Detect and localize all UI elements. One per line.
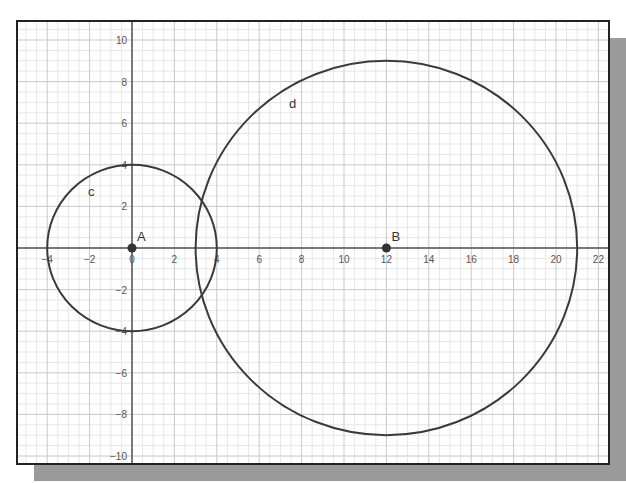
x-tick-label: 22 bbox=[593, 254, 605, 265]
y-tick-label: −8 bbox=[116, 409, 128, 420]
y-tick-label: −2 bbox=[116, 285, 128, 296]
point-label-B: B bbox=[391, 229, 400, 244]
x-tick-label: 20 bbox=[550, 254, 562, 265]
x-tick-label: 18 bbox=[508, 254, 520, 265]
y-tick-label: 2 bbox=[121, 201, 127, 212]
y-tick-label: 8 bbox=[121, 77, 127, 88]
y-tick-label: −6 bbox=[116, 368, 128, 379]
point-A[interactable] bbox=[128, 244, 137, 253]
y-tick-label: 10 bbox=[116, 35, 128, 46]
y-tick-label: 6 bbox=[121, 118, 127, 129]
point-B[interactable] bbox=[382, 244, 391, 253]
x-tick-label: 16 bbox=[466, 254, 478, 265]
x-tick-label: 14 bbox=[423, 254, 435, 265]
plot-background bbox=[17, 21, 609, 464]
x-tick-label: 10 bbox=[338, 254, 350, 265]
circle-label-d: d bbox=[289, 96, 296, 111]
x-tick-label: 2 bbox=[172, 254, 178, 265]
point-label-A: A bbox=[137, 229, 146, 244]
x-tick-label: 0 bbox=[129, 254, 135, 265]
x-tick-label: 8 bbox=[299, 254, 305, 265]
x-tick-label: −2 bbox=[84, 254, 96, 265]
circle-label-c: c bbox=[88, 184, 95, 199]
x-tick-label: 6 bbox=[256, 254, 262, 265]
x-tick-label: 12 bbox=[381, 254, 393, 265]
y-tick-label: −10 bbox=[110, 451, 127, 462]
